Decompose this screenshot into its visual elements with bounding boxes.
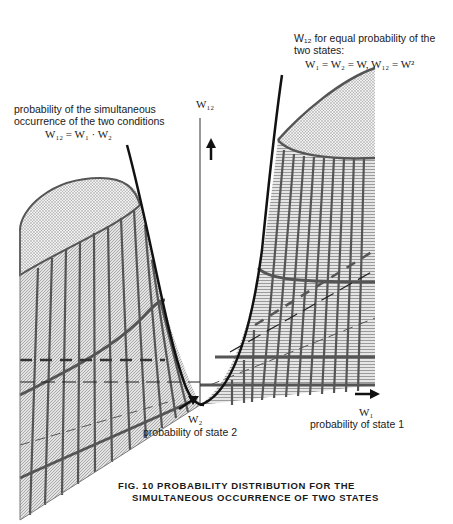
w12-arrow-icon bbox=[206, 138, 216, 160]
w2-axis-description: probability of state 2 bbox=[143, 426, 237, 438]
w1-axis-description: probability of state 1 bbox=[310, 418, 404, 430]
probability-surface-diagram bbox=[0, 0, 453, 524]
w2-axis-label: W₂ bbox=[188, 413, 202, 425]
caption-line1: FIG. 10 PROBABILITY DISTRIBUTION FOR THE bbox=[118, 480, 379, 492]
left-formula: W₁₂ = W₁ · W₂ bbox=[45, 128, 112, 140]
w12-axis-label: W₁₂ bbox=[196, 98, 214, 110]
left-annotation-line1: probability of the simultaneous bbox=[14, 103, 156, 115]
right-surface bbox=[200, 68, 375, 405]
left-annotation-line2: occurrence of the two conditions bbox=[14, 115, 165, 127]
caption-line2: SIMULTANEOUS OCCURRENCE OF TWO STATES bbox=[118, 492, 379, 504]
right-annotation-line1: W₁₂ for equal probability of the bbox=[294, 32, 435, 44]
right-formula: W₁ = W₂ = W, W₁₂ = W² bbox=[305, 58, 414, 70]
figure-caption: FIG. 10 PROBABILITY DISTRIBUTION FOR THE… bbox=[118, 480, 379, 504]
right-annotation-line2: two states: bbox=[294, 44, 344, 56]
w1-axis-label: W₁ bbox=[359, 406, 373, 418]
